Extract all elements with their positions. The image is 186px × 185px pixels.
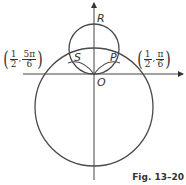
- r-fraction: 1 2: [10, 50, 18, 69]
- point-label-s: S: [74, 52, 81, 63]
- open-paren: (: [3, 49, 8, 69]
- close-paren: ): [37, 49, 42, 69]
- theta-fraction: 5π 6: [22, 50, 36, 69]
- polar-diagram: [0, 0, 186, 185]
- figure-caption: Fig. 13–20: [132, 172, 184, 182]
- left-coordinate-label: ( 1 2 , 5π 6 ): [2, 49, 44, 69]
- r-fraction: 1 2: [144, 50, 152, 69]
- point-label-o: O: [97, 77, 106, 88]
- point-label-r: R: [97, 13, 105, 24]
- open-paren: (: [137, 49, 142, 69]
- theta-fraction: π 6: [156, 50, 164, 69]
- close-paren: ): [166, 49, 171, 69]
- inner-left-arc: [68, 62, 94, 74]
- right-coordinate-label: ( 1 2 , π 6 ): [136, 49, 172, 69]
- point-label-p: P: [110, 52, 117, 63]
